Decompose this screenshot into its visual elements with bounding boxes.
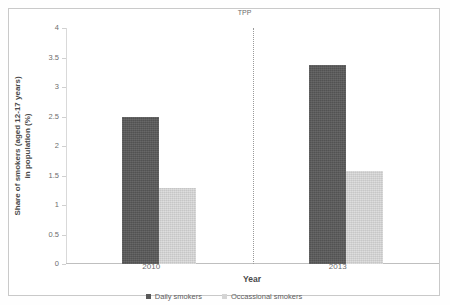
y-axis-title: Share of smokers (aged 12-17 years) in p…: [13, 46, 33, 246]
y-tick-mark: [62, 28, 66, 29]
tpp-annotation-label: TPP: [238, 9, 252, 16]
bar-2013-occasional[interactable]: [346, 171, 383, 264]
y-axis-line: [66, 28, 67, 264]
legend-label: Daily smokers: [155, 293, 202, 301]
legend-item-occasional-smokers[interactable]: Occassional smokers: [222, 293, 302, 301]
y-tick-label: 2.5: [49, 113, 59, 121]
y-tick-mark: [62, 264, 66, 265]
x-tick-label-2013: 2013: [329, 263, 347, 271]
y-tick-mark: [62, 205, 66, 206]
bar-2013-daily[interactable]: [309, 65, 346, 264]
tpp-divider-line: [253, 28, 254, 264]
y-tick-label: 3.5: [49, 54, 59, 62]
y-tick-mark: [62, 176, 66, 177]
legend-item-daily-smokers[interactable]: Daily smokers: [146, 293, 202, 301]
y-tick-mark: [62, 117, 66, 118]
y-tick-mark: [62, 235, 66, 236]
legend-label: Occassional smokers: [231, 293, 302, 301]
plot-area: 00.511.522.533.54: [66, 28, 439, 264]
y-tick-label: 0: [55, 260, 59, 268]
y-tick-mark: [62, 146, 66, 147]
y-tick-mark: [62, 58, 66, 59]
y-tick-label: 0.5: [49, 231, 59, 239]
y-tick-label: 4: [55, 24, 59, 32]
y-tick-label: 3: [55, 83, 59, 91]
bar-2010-occasional[interactable]: [159, 188, 196, 264]
chart-frame: Share of smokers (aged 12-17 years) in p…: [8, 8, 440, 296]
y-tick-label: 2: [55, 142, 59, 150]
chart-legend: Daily smokersOccassional smokers: [9, 293, 439, 301]
y-tick-mark: [62, 87, 66, 88]
legend-swatch-icon: [146, 294, 151, 299]
legend-swatch-icon: [222, 294, 227, 299]
x-tick-label-2010: 2010: [142, 263, 160, 271]
y-axis-title-line1: Share of smokers (aged 12-17 years): [13, 76, 22, 215]
y-tick-label: 1: [55, 201, 59, 209]
bar-2010-daily[interactable]: [122, 117, 159, 265]
y-tick-label: 1.5: [49, 172, 59, 180]
chart-figure: Share of smokers (aged 12-17 years) in p…: [0, 0, 450, 305]
y-axis-title-line2: in population (%): [23, 114, 32, 179]
x-axis-title: Year: [243, 275, 261, 284]
